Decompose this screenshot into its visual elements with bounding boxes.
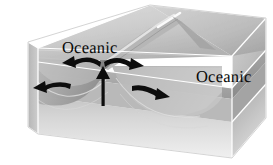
plate-boundary-figure: Oceanic Oceanic — [0, 0, 273, 165]
block-diagram-svg — [0, 0, 273, 165]
